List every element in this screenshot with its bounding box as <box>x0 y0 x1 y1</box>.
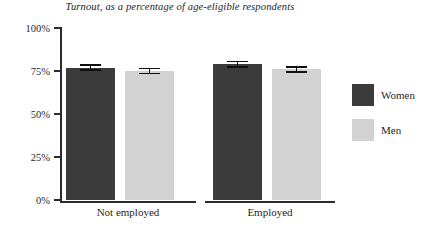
chart-title: Turnout, as a percentage of age-eligible… <box>0 1 360 12</box>
bar-employed-men <box>272 69 321 200</box>
legend-label-women: Women <box>381 89 415 101</box>
y-tick-label-75: 75% <box>2 66 50 77</box>
error-bar-employed-men <box>286 66 307 73</box>
plot-area <box>61 28 332 200</box>
y-tick-label-50: 50% <box>2 109 50 120</box>
bar-employed-women <box>213 64 262 200</box>
legend-swatch-women <box>352 84 374 106</box>
y-tick-label-0: 0% <box>2 195 50 206</box>
x-label-employed: Employed <box>205 206 335 218</box>
bar-not-employed-men <box>125 71 174 200</box>
y-tick-label-100: 100% <box>2 23 50 34</box>
y-tick-100 <box>54 27 60 29</box>
error-bar-not-employed-men <box>139 68 160 75</box>
y-tick-50 <box>54 113 60 115</box>
y-axis-tick-labels: 100% 75% 50% 25% 0% <box>0 0 50 235</box>
y-tick-label-25: 25% <box>2 152 50 163</box>
x-axis-line-group-2 <box>205 201 335 203</box>
legend-swatch-men <box>352 119 374 141</box>
bar-not-employed-women <box>66 68 115 200</box>
y-tick-25 <box>54 156 60 158</box>
bar-chart-figure: Turnout, as a percentage of age-eligible… <box>0 0 437 235</box>
y-tick-75 <box>54 70 60 72</box>
x-axis-line-group-1 <box>60 201 196 203</box>
x-label-not-employed: Not employed <box>58 206 198 218</box>
legend-label-men: Men <box>381 124 401 136</box>
error-bar-employed-women <box>227 61 248 68</box>
error-bar-not-employed-women <box>80 64 101 71</box>
